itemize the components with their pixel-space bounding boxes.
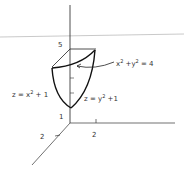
py-rhs: +1 [105,95,118,103]
parabola-x [52,68,71,108]
cyl-rhs: = 4 [139,60,154,68]
px-lhs: z = x [12,91,30,99]
py-lhs: z = y [84,95,102,103]
paraboloid-x-label: z = x2 + 1 [12,90,48,99]
cylinder-label: x2 +y2 = 4 [116,59,154,68]
top-edge-x [52,49,70,67]
y-tick-label: 2 [92,132,96,139]
x-tick [55,135,60,136]
px-rhs: + 1 [33,91,48,99]
z-tick-5: 5 [58,42,62,49]
x-tick-label: 2 [40,134,44,141]
paraboloid-y-label: z = y2 +1 [84,94,118,103]
surface-diagram: 5 1 2 2 x2 +y2 = 4 z = x2 + 1 z = y2 +1 [0,0,184,171]
diagram-svg [0,0,184,171]
z-tick-1: 1 [59,114,63,121]
guide-line [0,34,184,37]
x-axis [32,123,70,165]
cylinder-curve [52,50,95,68]
cyl-y: +y [123,60,135,68]
pointer-arrow [77,62,114,67]
